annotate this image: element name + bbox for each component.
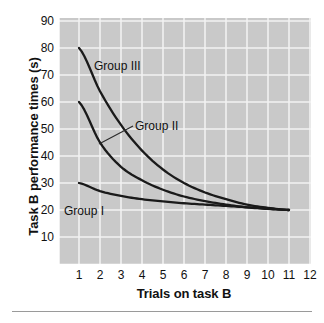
curve-annotation-group-iii: Group III	[94, 60, 141, 72]
plot-area	[0, 0, 324, 323]
footer-divider	[12, 311, 312, 312]
chart-figure: Task B performance times (s) Trials on t…	[0, 0, 324, 323]
curve-annotation-group-ii: Group II	[135, 120, 178, 132]
curve-annotation-group-i: Group I	[64, 205, 104, 217]
